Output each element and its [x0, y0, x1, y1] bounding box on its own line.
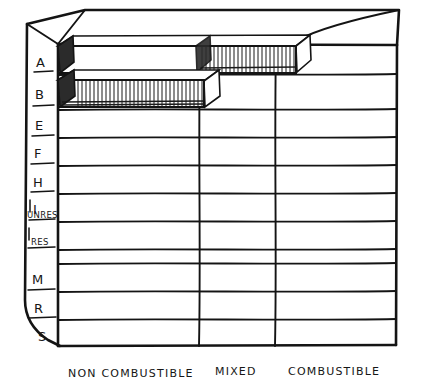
y-label-B: B — [35, 87, 44, 102]
y-label-A: A — [36, 55, 45, 70]
y-axis-labels: A B E F H I UNRES RES M R S — [27, 55, 58, 344]
y-label-H: H — [33, 175, 43, 190]
x-label-mixed: MIXED — [215, 365, 257, 378]
hand-drawn-bar-chart: A B E F H I UNRES RES M R S NON COMBUSTI… — [0, 0, 421, 392]
bar-row-A — [58, 35, 311, 73]
y-label-S: S — [38, 329, 47, 344]
y-label-M: M — [32, 272, 44, 287]
y-label-unres: UNRES — [27, 210, 58, 220]
chart-canvas: A B E F H I UNRES RES M R S NON COMBUSTI… — [0, 0, 421, 392]
y-label-R: R — [34, 301, 44, 316]
x-axis-labels: NON COMBUSTIBLE MIXED COMBUSTIBLE — [68, 365, 380, 380]
horizontal-gridlines — [58, 74, 396, 320]
y-label-E: E — [35, 118, 44, 133]
x-label-noncombustible: NON COMBUSTIBLE — [68, 367, 194, 380]
x-label-combustible: COMBUSTIBLE — [288, 365, 380, 378]
y-label-F: F — [34, 146, 42, 161]
bar-row-B — [58, 70, 220, 107]
y-label-res: RES — [31, 237, 49, 247]
